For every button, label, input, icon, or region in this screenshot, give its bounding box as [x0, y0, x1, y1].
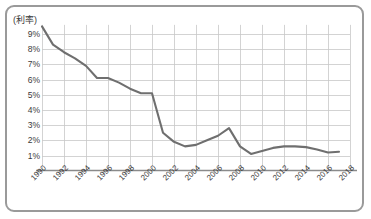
x-axis-tick-2008: 2008 — [227, 163, 246, 182]
x-axis-tick-1994: 1994 — [73, 163, 92, 182]
x-axis-tick-1998: 1998 — [117, 163, 136, 182]
x-axis-tick-2014: 2014 — [293, 163, 312, 182]
x-axis-tick-1996: 1996 — [95, 163, 114, 182]
x-axis-tick-2000: 2000 — [139, 163, 158, 182]
x-axis-tick-2002: 2002 — [161, 163, 180, 182]
x-axis-tick-1990: 1990 — [29, 163, 48, 182]
x-axis-tick-2016: 2016 — [315, 163, 334, 182]
x-axis-tick-1992: 1992 — [51, 163, 70, 182]
x-axis-tick-2018: 2018 — [337, 163, 356, 182]
x-axis-tick-2004: 2004 — [183, 163, 202, 182]
x-axis-tick-2006: 2006 — [205, 163, 224, 182]
x-axis-tick-labels: 1990199219941996199820002002200420062008… — [0, 0, 371, 219]
chart-screenshot: (利率) 9%8%7%6%5%4%3%2%1% 1990199219941996… — [0, 0, 371, 219]
x-axis-tick-2012: 2012 — [271, 163, 290, 182]
x-axis-tick-2010: 2010 — [249, 163, 268, 182]
